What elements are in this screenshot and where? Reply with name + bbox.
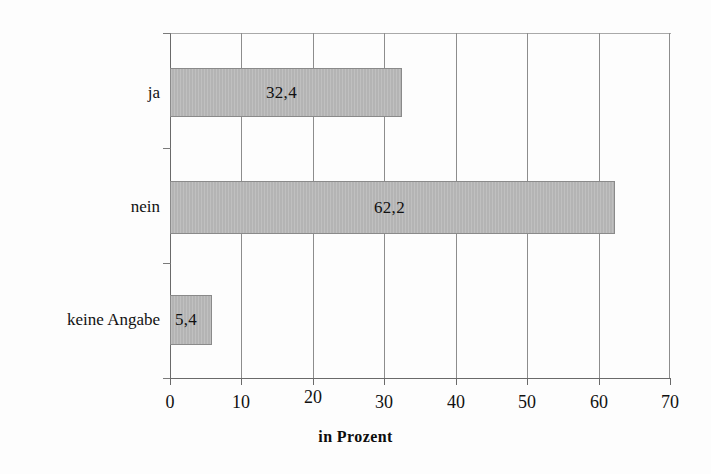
x-tick-mark-0 <box>170 378 171 385</box>
x-tick-label-0: 0 <box>150 392 190 413</box>
x-tick-mark-20 <box>313 378 314 385</box>
x-tick-mark-70 <box>670 378 671 385</box>
bar-value-keine-angabe: 5,4 <box>175 310 197 330</box>
x-tick-mark-10 <box>241 378 242 385</box>
x-tick-mark-30 <box>384 378 385 385</box>
x-tick-label-10: 10 <box>221 392 261 413</box>
x-tick-label-30: 30 <box>364 392 404 413</box>
y-tick-2 <box>163 263 171 264</box>
category-label-keine-angabe: keine Angabe <box>0 310 160 330</box>
x-axis-title: in Prozent <box>0 428 711 446</box>
x-tick-label-20: 20 <box>293 387 333 408</box>
bar-value-nein: 62,2 <box>374 198 405 218</box>
x-tick-mark-40 <box>456 378 457 385</box>
bar-value-ja: 32,4 <box>266 83 297 103</box>
x-tick-label-40: 40 <box>436 392 476 413</box>
y-tick-1 <box>163 148 171 149</box>
category-label-ja: ja <box>0 83 160 103</box>
x-axis-line <box>170 378 671 379</box>
x-tick-mark-60 <box>599 378 600 385</box>
gridline-70 <box>669 33 670 378</box>
category-label-nein: nein <box>0 197 160 217</box>
y-tick-top <box>163 33 171 34</box>
plot-area: 32,4 62,2 5,4 <box>170 33 670 378</box>
x-tick-label-60: 60 <box>579 392 619 413</box>
x-tick-mark-50 <box>527 378 528 385</box>
bar-chart-figure: 32,4 62,2 5,4 ja nein keine Angabe 0 10 … <box>0 0 711 474</box>
x-tick-label-50: 50 <box>507 392 547 413</box>
x-tick-label-70: 70 <box>650 392 690 413</box>
